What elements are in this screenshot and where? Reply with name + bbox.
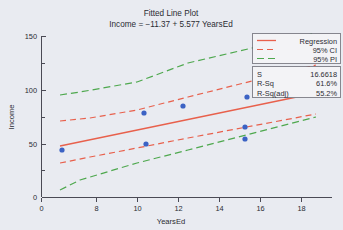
y-tick-label-100: 100 (25, 86, 37, 95)
x-axis-tick-labels: 0 8 10 12 14 16 18 (39, 204, 305, 213)
x-axis-title: YearsEd (157, 217, 185, 226)
legend-label-pi: 95% PI (313, 55, 337, 64)
y-axis-title: Income (7, 105, 16, 130)
stat-value-s: 16.6618 (310, 70, 337, 79)
chart-subtitle: Income = −11.37 + 5.577 YearsEd (109, 20, 233, 29)
chart-title: Fitted Line Plot (144, 9, 199, 18)
x-axis-ticks (42, 198, 302, 203)
legend-label-ci: 95% CI (313, 46, 337, 55)
data-point (242, 124, 247, 129)
y-tick-label-150: 150 (25, 32, 37, 41)
chart-canvas: Fitted Line Plot Income = −11.37 + 5.577… (0, 0, 343, 230)
data-point (143, 141, 148, 146)
prediction-interval-lower (60, 117, 316, 190)
stat-label-rsq: R-Sq (257, 79, 274, 88)
statistics-box[interactable]: S 16.6618 R-Sq 61.6% R-Sq(adj) 55.2% (253, 67, 341, 98)
fitted-line-plot-screenshot: Fitted Line Plot Income = −11.37 + 5.577… (0, 0, 343, 230)
x-tick-label-0: 0 (39, 204, 43, 213)
data-point (242, 136, 247, 141)
y-tick-label-50: 50 (29, 140, 37, 149)
data-point (59, 147, 64, 152)
data-point (141, 110, 146, 115)
y-axis-ticks (42, 37, 47, 198)
y-tick-label-0: 0 (33, 193, 37, 202)
legend-box[interactable]: Regression 95% CI 95% PI (253, 34, 341, 64)
stat-value-rsq: 61.6% (316, 79, 337, 88)
legend-label-regression: Regression (300, 37, 337, 46)
x-tick-label-10: 10 (133, 204, 141, 213)
x-tick-label-14: 14 (215, 204, 223, 213)
data-point (180, 103, 185, 108)
stat-label-rsq-adj: R-Sq(adj) (257, 89, 289, 98)
x-tick-label-18: 18 (297, 204, 305, 213)
stat-label-s: S (257, 70, 262, 79)
x-tick-label-12: 12 (174, 204, 182, 213)
data-point (244, 94, 249, 99)
y-axis-tick-labels: 150 100 50 0 (25, 32, 37, 202)
x-tick-label-16: 16 (256, 204, 264, 213)
x-tick-label-8: 8 (94, 204, 98, 213)
stat-value-rsq-adj: 55.2% (316, 89, 337, 98)
